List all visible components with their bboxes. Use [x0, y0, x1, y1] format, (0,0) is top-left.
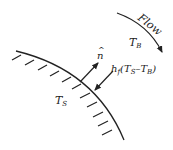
surface-boundary: [16, 51, 124, 140]
heat-transfer-diagram: Flow TB n ^ hf(TS–TB) TS: [0, 0, 173, 150]
bulk-temperature-label: TB: [129, 36, 142, 50]
heat-flux-label: hf(TS–TB): [111, 63, 156, 76]
surface-temperature-label: TS: [55, 94, 67, 108]
normal-vector-arrow: [80, 63, 98, 82]
normal-hat: ^: [98, 45, 105, 54]
